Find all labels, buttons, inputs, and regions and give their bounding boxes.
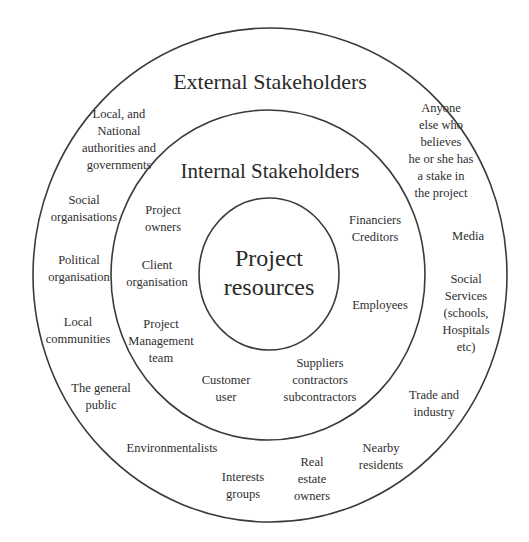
- internal-project-owners: Project owners: [128, 202, 198, 236]
- internal-employees: Employees: [340, 297, 420, 314]
- external-social-services: Social Services (schools, Hospitals etc): [426, 271, 506, 356]
- external-social-organisations: Social organisations: [40, 192, 128, 226]
- external-trade-and-industry: Trade and industry: [394, 387, 474, 421]
- external-local-communities: Local communities: [36, 314, 120, 348]
- external-political-organisation: Political organisation: [36, 252, 122, 286]
- external-nearby-residents: Nearby residents: [346, 440, 416, 474]
- project-resources-title: Project resources: [209, 244, 329, 302]
- external-interests-groups: Interests groups: [210, 469, 276, 503]
- external-local-national-authorities: Local, and National authorities and gove…: [66, 106, 172, 174]
- internal-customer-user: Customer user: [190, 372, 262, 406]
- internal-suppliers-contractors: Suppliers contractors subcontractors: [270, 355, 370, 406]
- external-stakeholders-title: External Stakeholders: [160, 69, 380, 95]
- external-general-public: The general public: [58, 380, 144, 414]
- external-real-estate-owners: Real estate owners: [284, 454, 340, 505]
- internal-stakeholders-title: Internal Stakeholders: [160, 159, 380, 184]
- external-media: Media: [438, 228, 498, 245]
- external-anyone-with-stake: Anyone else who believes he or she has a…: [380, 100, 502, 202]
- internal-project-management-team: Project Management team: [116, 316, 206, 367]
- external-environmentalists: Environmentalists: [112, 440, 232, 457]
- internal-financiers-creditors: Financiers Creditors: [335, 212, 415, 246]
- internal-client-organisation: Client organisation: [112, 257, 202, 291]
